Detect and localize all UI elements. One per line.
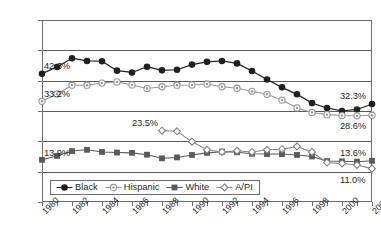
legend-item-white[interactable]: White [166, 183, 209, 192]
value-annotation: 28.6% [340, 120, 366, 131]
gridline [43, 81, 371, 82]
value-annotation: 42.3% [44, 60, 70, 71]
legend-item-a-pi[interactable]: A/PI [216, 183, 253, 192]
value-annotation: 11.0% [340, 174, 365, 185]
value-annotation: 33.2% [44, 88, 70, 99]
legend-marker-ring-circle-icon [105, 183, 122, 192]
legend-item-black[interactable]: Black [56, 183, 98, 192]
chart-container: 0%10%20%30%40%50%60% 1980198219841986198… [0, 0, 381, 246]
legend-item-label: Hispanic [124, 183, 160, 192]
legend-item-label: White [185, 183, 209, 192]
gridline [43, 111, 371, 112]
gridline [43, 172, 371, 173]
plot-area [42, 20, 372, 202]
value-annotation: 13.9% [44, 147, 70, 158]
legend-marker-filled-circle-icon [56, 183, 73, 192]
value-annotation: 32.3% [340, 90, 366, 101]
value-annotation: 13.6% [340, 147, 366, 158]
legend-marker-filled-square-icon [166, 183, 183, 192]
legend-marker-open-diamond-icon [216, 183, 233, 192]
legend-item-label: Black [75, 183, 98, 192]
legend-item-label: A/PI [235, 183, 253, 192]
gridline [43, 141, 371, 142]
value-annotation: 23.5% [132, 117, 158, 128]
gridline [43, 50, 371, 51]
chart-legend: BlackHispanicWhiteA/PI [50, 180, 260, 195]
legend-item-hispanic[interactable]: Hispanic [105, 183, 160, 192]
